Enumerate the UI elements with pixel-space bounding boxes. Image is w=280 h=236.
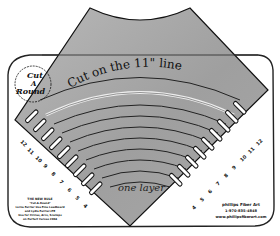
svg-text:www.phillipsfiberart.com: www.phillipsfiberart.com — [216, 215, 267, 219]
one-layer-label: one layer — [118, 182, 166, 193]
svg-text:Lorna Ferrier Use Fine Leadboa: Lorna Ferrier Use Fine Leadboard — [15, 206, 64, 209]
svg-text:Round: Round — [15, 86, 46, 96]
ruler-illustration: 12 11 10 9 8 7 6 5 4 12 11 10 9 8 7 6 5 … — [0, 0, 280, 236]
svg-text:on Perfect Curves 2004: on Perfect Curves 2004 — [23, 218, 57, 221]
svg-text:and Lydia Ferrier-LTE: and Lydia Ferrier-LTE — [25, 210, 56, 213]
illustration: 12 11 10 9 8 7 6 5 4 12 11 10 9 8 7 6 5 … — [0, 0, 280, 236]
svg-text:THE NEW RULE: THE NEW RULE — [27, 197, 52, 201]
svg-text:"Cut-A-Round": "Cut-A-Round" — [29, 202, 51, 205]
svg-text:phillips Fiber Art: phillips Fiber Art — [222, 202, 260, 207]
svg-text:Use for Circles, Arcs, Scallop: Use for Circles, Arcs, Scallops — [18, 214, 62, 217]
svg-text:1-970-835-4848: 1-970-835-4848 — [225, 209, 257, 213]
